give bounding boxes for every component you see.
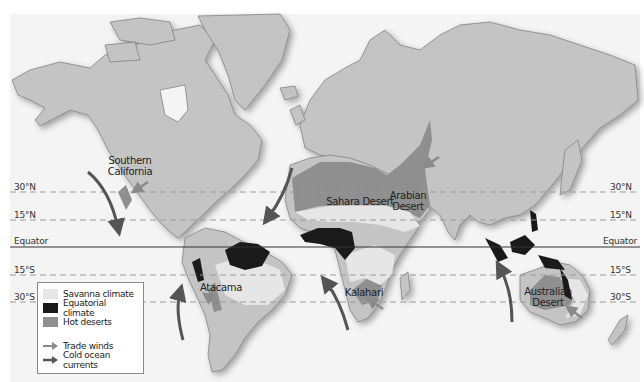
lat-label-equator-right: Equator [603, 236, 637, 246]
lat-label-15s-left: 15°S [14, 265, 35, 275]
region-label-line: Arabian [383, 190, 433, 201]
legend-item-cold-currents: Cold ocean currents [43, 353, 138, 367]
region-label-australian: Australian Desert [518, 286, 578, 308]
lat-label-30s-right: 30°S [610, 292, 631, 302]
lat-label-equator-left: Equator [14, 236, 48, 246]
legend-label: Hot deserts [63, 317, 112, 327]
region-label-southern-california: Southern California [97, 155, 163, 177]
region-label-line: Australian [518, 286, 578, 297]
region-label-line: Desert [383, 201, 433, 212]
lat-label-30s-left: 30°S [14, 292, 35, 302]
region-label-arabian: Arabian Desert [383, 190, 433, 212]
hot-desert-swatch [43, 317, 58, 327]
lat-label-30n-left: 30°N [14, 182, 36, 192]
trade-wind-arrow-icon [43, 341, 58, 351]
lat-label-15n-right: 15°N [610, 210, 632, 220]
legend: Savanna climate Equatorial climate Hot d… [37, 282, 144, 374]
lat-label-15s-right: 15°S [610, 265, 631, 275]
lat-label-30n-right: 30°N [610, 182, 632, 192]
cold-current-arrow-icon [43, 355, 58, 365]
legend-label: Cold ocean currents [63, 350, 138, 370]
region-label-line: Desert [518, 297, 578, 308]
region-label-line: California [97, 166, 163, 177]
legend-item-equatorial: Equatorial climate [43, 301, 138, 315]
region-label-atacama: Atacama [196, 282, 246, 293]
lat-label-15n-left: 15°N [14, 210, 36, 220]
region-label-line: Southern [97, 155, 163, 166]
savanna-swatch [43, 289, 58, 299]
equatorial-swatch [43, 303, 58, 313]
legend-label: Equatorial climate [63, 298, 138, 318]
region-label-kalahari: Kalahari [339, 287, 389, 298]
